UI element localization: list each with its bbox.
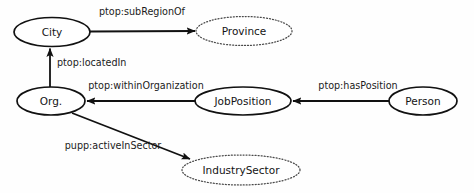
edge-jobposition-withinorganization-org: ptop:withinOrganization xyxy=(87,80,204,101)
node-label-jobposition: JobPosition xyxy=(213,95,271,107)
edge-label-withinorganization: ptop:withinOrganization xyxy=(88,80,203,91)
node-org[interactable]: Org. xyxy=(17,87,85,115)
edge-org-activeinsector-industrysector: pupp:activeInSector xyxy=(65,113,190,159)
node-label-province: Province xyxy=(222,25,267,37)
node-province[interactable]: Province xyxy=(196,17,292,46)
edge-label-subregionof: ptop:subRegionOf xyxy=(99,6,186,17)
node-city[interactable]: City xyxy=(14,18,90,47)
node-label-city: City xyxy=(42,26,63,38)
edge-person-hasposition-jobposition: ptop:hasPosition xyxy=(293,80,398,101)
graph-canvas: ptop:subRegionOf ptop:locatedIn ptop:wit… xyxy=(0,0,474,193)
node-label-person: Person xyxy=(405,95,440,107)
node-label-org: Org. xyxy=(40,95,62,107)
edge-city-subregionof-province: ptop:subRegionOf xyxy=(90,6,195,32)
ontology-diagram: ptop:subRegionOf ptop:locatedIn ptop:wit… xyxy=(0,0,474,193)
edge-line-subregionof xyxy=(90,31,195,32)
node-label-industrysector: IndustrySector xyxy=(203,164,281,176)
edge-line-activeinsector xyxy=(72,113,190,159)
node-industrysector[interactable]: IndustrySector xyxy=(182,155,300,185)
node-jobposition[interactable]: JobPosition xyxy=(195,87,291,115)
edge-label-hasposition: ptop:hasPosition xyxy=(318,80,397,91)
node-person[interactable]: Person xyxy=(389,87,457,115)
edge-label-activeinsector: pupp:activeInSector xyxy=(65,140,162,151)
edge-label-locatedin: ptop:locatedIn xyxy=(57,57,126,68)
